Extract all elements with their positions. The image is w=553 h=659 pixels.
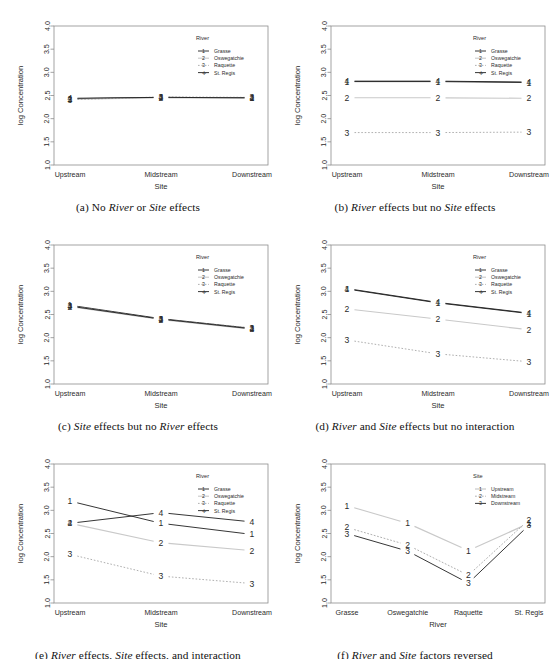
caption-text: (d) <box>315 420 331 432</box>
legend-key-symbol: ✛ <box>479 289 483 295</box>
legend-key-symbol: 3 <box>202 500 205 506</box>
y-tick-label: 3.5 <box>321 263 329 273</box>
series-point-label: 3 <box>466 578 471 588</box>
series-segment <box>475 526 522 547</box>
caption-text: (e) <box>35 649 51 659</box>
y-tick-label: 2.5 <box>321 310 329 320</box>
series-point-label: 3 <box>68 549 73 559</box>
y-tick-label: 2.0 <box>44 333 52 343</box>
series-point-label: 3 <box>345 128 350 138</box>
y-axis-title: log Concentration <box>16 285 25 345</box>
y-tick-label: 3.0 <box>321 67 329 77</box>
series-point-label: 4 <box>68 93 73 103</box>
y-tick-label: 4.0 <box>44 240 52 250</box>
y-tick-label: 3.5 <box>321 44 329 54</box>
series-segment <box>354 536 400 549</box>
y-axis-title: log Concentration <box>293 285 302 345</box>
legend-title: River <box>473 254 486 260</box>
x-tick-label: Upstream <box>55 171 86 179</box>
legend-item-label: Downstream <box>491 500 520 506</box>
caption-c: (c) Site effects but no River effects <box>0 420 276 432</box>
y-tick-label: 1.5 <box>321 356 329 366</box>
y-tick-label: 3.0 <box>321 286 329 296</box>
series-segment <box>414 555 461 580</box>
legend-item-label: Raquette <box>491 281 512 287</box>
series-segment <box>354 290 430 302</box>
x-axis-title: Site <box>431 401 444 409</box>
series-point-label: 4 <box>159 314 164 324</box>
y-axis-title: log Concentration <box>16 504 25 564</box>
plot-b: 1.01.52.02.53.03.54.0log ConcentrationUp… <box>277 0 553 190</box>
x-tick-label: Midstream <box>144 609 177 617</box>
panel-e: 1.01.52.02.53.03.54.0log ConcentrationUp… <box>0 438 276 659</box>
y-axis-title: log Concentration <box>293 66 302 126</box>
series-point-label: 3 <box>159 571 164 581</box>
legend-key-symbol: 3 <box>202 62 205 68</box>
legend-item-label: St. Regis <box>214 70 235 76</box>
legend-key-symbol: 2 <box>479 274 482 280</box>
plot-c: 1.01.52.02.53.03.54.0log ConcentrationUp… <box>0 219 276 409</box>
caption-text: (f) <box>337 649 352 659</box>
caption-term: River <box>160 420 185 432</box>
y-tick-label: 1.5 <box>321 575 329 585</box>
y-tick-label: 4.0 <box>321 240 329 250</box>
caption-text: (c) <box>58 420 74 432</box>
x-tick-label: Upstream <box>332 171 363 179</box>
y-tick-label: 2.5 <box>44 310 52 320</box>
y-tick-label: 1.5 <box>44 356 52 366</box>
legend-item-label: Oswegatchie <box>491 274 521 280</box>
y-tick-label: 4.0 <box>44 459 52 469</box>
caption-term: Site <box>149 201 166 213</box>
caption-text: and <box>377 649 399 659</box>
legend-item-label: Grasse <box>491 267 508 273</box>
caption-text: effects <box>185 420 219 432</box>
legend-key-symbol: 3 <box>479 500 482 506</box>
y-tick-label: 3.0 <box>44 286 52 296</box>
x-tick-label: Raquette <box>454 609 483 617</box>
legend-item-label: St. Regis <box>491 289 512 295</box>
y-tick-label: 2.0 <box>321 333 329 343</box>
y-tick-label: 1.0 <box>44 160 52 170</box>
legend-item-label: Oswegatchie <box>214 493 244 499</box>
legend-key-symbol: 1 <box>479 267 482 273</box>
series-segment <box>414 548 461 571</box>
y-tick-label: 1.0 <box>321 379 329 389</box>
series-segment <box>474 525 524 570</box>
legend-key-symbol: 2 <box>479 55 482 61</box>
legend-key-symbol: 2 <box>202 493 205 499</box>
y-tick-label: 3.0 <box>321 505 329 515</box>
caption-b: (b) River effects but no Site effects <box>277 201 553 213</box>
series-segment <box>168 524 244 533</box>
series-segment <box>77 503 153 522</box>
y-tick-label: 4.0 <box>321 21 329 31</box>
plot-frame <box>54 464 268 603</box>
x-axis-title: River <box>429 620 447 629</box>
caption-term: Site <box>379 420 396 432</box>
series-segment <box>168 577 244 583</box>
series-point-label: 1 <box>68 496 73 506</box>
y-tick-label: 1.0 <box>321 160 329 170</box>
plot-e: 1.01.52.02.53.03.54.0log ConcentrationUp… <box>0 438 276 634</box>
series-segment <box>445 320 521 329</box>
x-axis-title: Site <box>154 620 167 629</box>
legend-title: River <box>196 254 209 260</box>
series-point-label: 1 <box>466 546 471 556</box>
caption-text: effects <box>166 201 200 213</box>
panel-d: 1.01.52.02.53.03.54.0log ConcentrationUp… <box>277 219 553 438</box>
series-point-label: 3 <box>527 357 532 367</box>
caption-text: effects but no interaction <box>397 420 515 432</box>
series-point-label: 2 <box>527 93 532 103</box>
y-tick-label: 1.0 <box>321 598 329 608</box>
y-tick-label: 1.5 <box>44 575 52 585</box>
series-point-label: 4 <box>436 76 441 86</box>
legend-key-symbol: 3 <box>479 62 482 68</box>
caption-text: effects but no <box>91 420 160 432</box>
panel-b: 1.01.52.02.53.03.54.0log ConcentrationUp… <box>277 0 553 219</box>
series-point-label: 4 <box>527 308 532 318</box>
legend-key-symbol: 1 <box>202 48 205 54</box>
series-point-label: 1 <box>159 518 164 528</box>
caption-e: (e) River effects, Site effects, and int… <box>0 649 276 659</box>
series-point-label: 3 <box>527 520 532 530</box>
x-tick-label: Downstream <box>232 390 272 398</box>
y-tick-label: 3.0 <box>44 505 52 515</box>
